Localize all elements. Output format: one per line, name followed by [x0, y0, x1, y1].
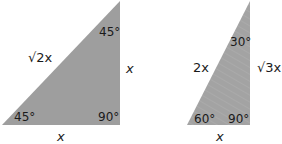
triangle-45-angle-bottom-left: 45°	[14, 111, 35, 123]
triangle-30-hypotenuse-label: 2x	[193, 61, 209, 74]
triangle-45-hypotenuse-label: √2x	[28, 51, 52, 64]
triangle-45-angle-top: 45°	[99, 26, 120, 38]
triangle-45-angle-right: 90°	[98, 111, 119, 123]
triangle-30-angle-bottom-left: 60°	[194, 113, 215, 125]
triangle-30-leg-label: √3x	[257, 61, 281, 74]
triangle-30-base-label: x	[216, 130, 224, 143]
triangle-45-leg-label: x	[126, 62, 134, 75]
triangle-45-base-label: x	[57, 130, 65, 143]
triangle-30-angle-right: 90°	[228, 113, 249, 125]
triangle-45-45-90	[2, 1, 120, 125]
triangle-30-angle-top: 30°	[230, 36, 251, 48]
